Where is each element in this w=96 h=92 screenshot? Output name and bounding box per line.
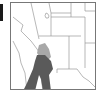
tx-border — [69, 69, 96, 89]
lake-outline — [45, 13, 49, 18]
nm-border — [57, 36, 69, 73]
shaded-region — [23, 43, 53, 90]
ut-east-border — [49, 3, 71, 13]
nv-ut-border — [31, 3, 39, 39]
shade-dark — [23, 55, 53, 90]
map-frame — [10, 2, 96, 90]
side-bar-marker — [0, 4, 3, 21]
state-boundaries — [13, 3, 96, 90]
map-svg — [11, 3, 96, 90]
co-border — [51, 17, 85, 40]
ca-coast — [13, 41, 27, 90]
ca-nv-border — [13, 17, 37, 49]
